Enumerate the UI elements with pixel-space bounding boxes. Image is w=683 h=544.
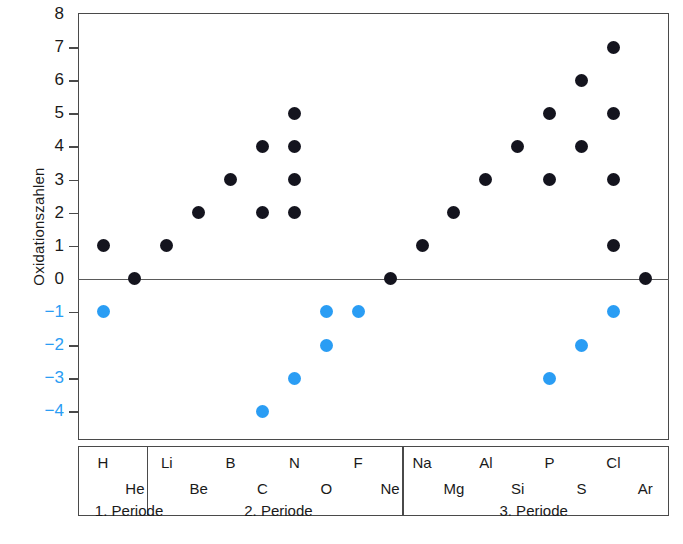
element-label-c: C (257, 481, 268, 496)
element-label-s: S (576, 481, 586, 496)
data-point-C-2 (256, 206, 269, 219)
y-tick-label-7: 7 (8, 38, 64, 55)
data-point-Na-1 (416, 239, 429, 252)
data-point-N-2 (288, 206, 301, 219)
y-tick-label-8: 8 (8, 5, 64, 22)
element-label-be: Be (190, 481, 208, 496)
data-point-H-neg1 (97, 305, 110, 318)
y-tick-label-neg1: −1 (8, 303, 64, 320)
y-tick-label-3: 3 (8, 171, 64, 188)
element-label-o: O (320, 481, 332, 496)
period-label-1: 1. Periode (95, 503, 163, 518)
period-label-3: 3. Periode (499, 503, 567, 518)
y-tick-label-4: 4 (8, 137, 64, 154)
data-point-O-neg2 (320, 339, 333, 352)
y-tick-label-5: 5 (8, 104, 64, 121)
data-point-C-4 (256, 140, 269, 153)
element-label-al: Al (479, 455, 492, 470)
data-point-Cl-5 (607, 107, 620, 120)
element-label-n: N (289, 455, 300, 470)
data-point-N-5 (288, 107, 301, 120)
data-point-P-5 (543, 107, 556, 120)
y-tick-label-6: 6 (8, 71, 64, 88)
data-point-Si-4 (511, 140, 524, 153)
y-tick-label-neg3: −3 (8, 369, 64, 386)
element-label-he: He (125, 481, 144, 496)
data-point-Cl-1 (607, 239, 620, 252)
data-point-H-1 (97, 239, 110, 252)
element-label-f: F (354, 455, 363, 470)
data-point-P-neg3 (543, 372, 556, 385)
element-label-li: Li (161, 455, 173, 470)
element-label-ar: Ar (638, 481, 653, 496)
data-point-N-neg3 (288, 372, 301, 385)
data-point-P-3 (543, 173, 556, 186)
y-tick-label-2: 2 (8, 204, 64, 221)
data-point-S-neg2 (575, 339, 588, 352)
y-axis-labels: 876543210−1−2−3−4 (6, 0, 64, 440)
y-tick-label-1: 1 (8, 237, 64, 254)
data-point-N-4 (288, 140, 301, 153)
data-point-Ne-0 (384, 272, 397, 285)
data-point-C-neg4 (256, 405, 269, 418)
data-point-N-3 (288, 173, 301, 186)
data-point-S-4 (575, 140, 588, 153)
period-label-2: 2. Periode (244, 503, 312, 518)
data-point-Cl-7 (607, 41, 620, 54)
element-label-h: H (98, 455, 109, 470)
element-label-p: P (545, 455, 555, 470)
element-label-ne: Ne (381, 481, 400, 496)
y-tick-label-neg2: −2 (8, 336, 64, 353)
data-point-B-3 (224, 173, 237, 186)
period-separator (402, 446, 404, 516)
oxidation-numbers-chart: Oxidationszahlen 876543210−1−2−3−4 HHeLi… (0, 0, 683, 544)
element-label-si: Si (511, 481, 524, 496)
data-point-Cl-3 (607, 173, 620, 186)
y-tick-label-neg4: −4 (8, 402, 64, 419)
element-label-cl: Cl (606, 455, 620, 470)
element-label-b: B (226, 455, 236, 470)
y-tick-label-0: 0 (8, 270, 64, 287)
element-label-na: Na (412, 455, 431, 470)
element-label-mg: Mg (443, 481, 464, 496)
zero-axis-line (78, 279, 669, 281)
data-point-S-6 (575, 74, 588, 87)
